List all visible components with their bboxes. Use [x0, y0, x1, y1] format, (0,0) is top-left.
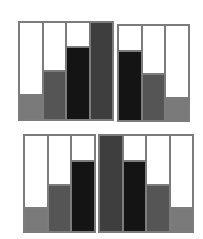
column-fill-mid [44, 70, 66, 119]
column-fill-mid [49, 184, 71, 232]
panel-column [20, 23, 44, 119]
column-fill-dark [100, 136, 122, 231]
column-fill-black [124, 160, 146, 231]
column-fill-mid [147, 184, 169, 232]
panel-bottom-right [98, 134, 194, 233]
panel-column [91, 23, 113, 119]
column-fill-dark [91, 23, 113, 119]
panel-column [119, 26, 143, 120]
panel-column [124, 136, 148, 231]
panel-column [147, 136, 171, 231]
column-fill-black [67, 46, 89, 119]
column-fill-black [72, 160, 94, 231]
panel-column [49, 136, 73, 231]
column-fill-light [25, 207, 47, 231]
panel-top-left [18, 21, 114, 121]
panel-column [72, 136, 94, 231]
column-fill-mid [143, 73, 165, 120]
panel-column [25, 136, 49, 231]
panel-column [166, 26, 188, 120]
column-fill-black [119, 50, 141, 121]
panel-column [100, 136, 124, 231]
panel-bottom-left [23, 134, 96, 233]
panel-top-right [117, 24, 190, 122]
column-fill-light [166, 97, 188, 120]
panel-column [171, 136, 193, 231]
column-fill-light [171, 207, 193, 231]
panel-column [143, 26, 167, 120]
column-fill-light [20, 94, 42, 119]
panel-column [44, 23, 68, 119]
panel-column [67, 23, 91, 119]
